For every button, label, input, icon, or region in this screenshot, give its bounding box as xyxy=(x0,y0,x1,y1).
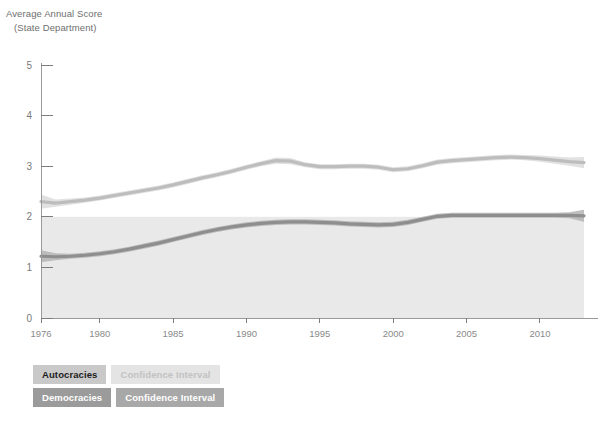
chart-page: Average Annual Score (State Department) … xyxy=(0,0,610,426)
svg-text:1990: 1990 xyxy=(236,328,257,339)
chart-legend: Autocracies Confidence Interval Democrac… xyxy=(33,365,224,407)
svg-text:1980: 1980 xyxy=(89,328,110,339)
plot-area: 01234519761980198519901995200020052010 xyxy=(0,0,610,360)
legend-item-democracies-ci[interactable]: Confidence Interval xyxy=(116,388,224,407)
svg-text:4: 4 xyxy=(26,110,32,121)
bottom-caption xyxy=(28,416,588,426)
svg-text:2005: 2005 xyxy=(456,328,477,339)
svg-text:1976: 1976 xyxy=(30,328,51,339)
svg-text:1985: 1985 xyxy=(163,328,184,339)
legend-item-autocracies-ci[interactable]: Confidence Interval xyxy=(111,365,219,384)
svg-text:3: 3 xyxy=(26,161,32,172)
svg-text:5: 5 xyxy=(26,60,32,71)
svg-text:1: 1 xyxy=(26,262,32,273)
legend-item-democracies[interactable]: Democracies xyxy=(33,388,111,407)
legend-row-autocracies: Autocracies Confidence Interval xyxy=(33,365,224,384)
svg-text:2010: 2010 xyxy=(529,328,550,339)
legend-row-democracies: Democracies Confidence Interval xyxy=(33,388,224,407)
svg-text:1995: 1995 xyxy=(309,328,330,339)
legend-item-autocracies[interactable]: Autocracies xyxy=(33,365,106,384)
svg-text:0: 0 xyxy=(26,313,32,324)
svg-text:2: 2 xyxy=(26,211,32,222)
svg-text:2000: 2000 xyxy=(383,328,404,339)
line-chart-svg: 01234519761980198519901995200020052010 xyxy=(0,0,610,360)
